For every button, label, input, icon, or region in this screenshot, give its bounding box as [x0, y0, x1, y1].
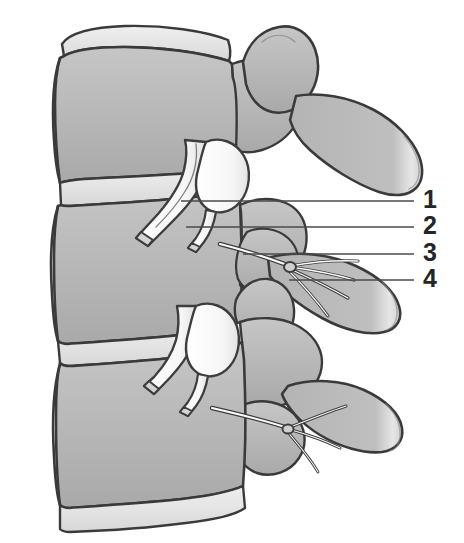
dorsal-root-ganglion-lower — [186, 304, 239, 377]
label-number-3: 3 — [423, 240, 437, 265]
label-number-2: 2 — [423, 213, 437, 238]
lumbar-spine-illustration — [0, 0, 464, 543]
lower-branch-node — [283, 425, 294, 434]
label-number-4: 4 — [423, 266, 437, 291]
upper-branch-node — [284, 262, 296, 272]
label-number-1: 1 — [423, 187, 437, 212]
